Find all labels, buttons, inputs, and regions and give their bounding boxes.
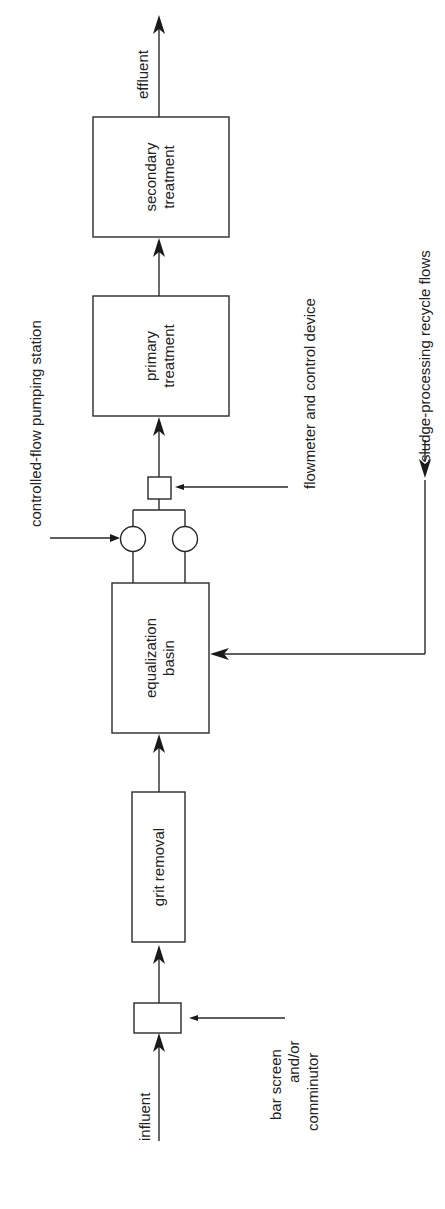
bar-screen-box [134, 1003, 181, 1033]
arrowhead-icon [189, 1015, 198, 1021]
effluent-label: effluent [134, 49, 151, 99]
pump-2-icon [173, 527, 198, 552]
grit-removal-label: grit removal [150, 828, 167, 906]
bar-screen-label-line3: comminutor [304, 1053, 321, 1131]
recycle-stream: sludge-processing recycle flows [210, 250, 433, 660]
primary-label-line1: primary [142, 331, 159, 382]
secondary-label-line1: secondary [142, 142, 159, 212]
grit-removal-unit: grit removal [132, 792, 185, 942]
secondary-treatment-unit: secondary treatment [93, 117, 229, 237]
primary-label-line2: treatment [160, 323, 177, 387]
equalization-label-line1: equalization [142, 618, 159, 698]
influent-label: influent [136, 1092, 153, 1141]
pumping-station-label: controlled-flow pumping station [27, 320, 44, 527]
flowmeter-box [148, 477, 171, 499]
influent-stream: influent [136, 1033, 165, 1141]
bar-screen-label-line1: bar screen [267, 1049, 284, 1120]
flowmeter-label: flowmeter and control device [301, 298, 318, 489]
primary-treatment-unit: primary treatment [93, 296, 229, 416]
secondary-label-line2: treatment [160, 144, 177, 208]
effluent-stream: effluent [134, 15, 165, 117]
equalization-basin-unit: equalization basin [112, 583, 209, 733]
arrowhead-icon [175, 484, 184, 490]
pump-1-icon [121, 527, 146, 552]
process-flow-diagram: influent bar screen and/or comminutor gr… [0, 0, 445, 1209]
bar-screen-unit: bar screen and/or comminutor [134, 1003, 321, 1131]
bar-screen-label-line2: and/or [285, 1040, 302, 1083]
recycle-label: sludge-processing recycle flows [416, 250, 433, 462]
equalization-label-line2: basin [160, 640, 177, 676]
arrowhead-icon [110, 534, 120, 542]
